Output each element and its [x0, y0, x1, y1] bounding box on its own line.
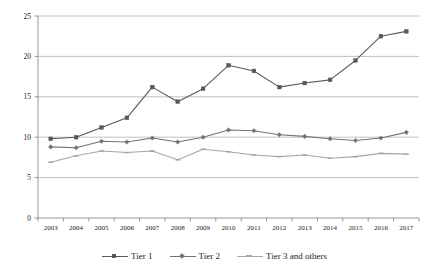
legend-marker-icon — [179, 253, 185, 259]
axis-lines — [35, 16, 39, 218]
data-point-marker — [150, 136, 155, 141]
x-tick-label: 2006 — [120, 224, 135, 232]
legend-item-tier-2[interactable]: Tier 2 — [170, 251, 220, 261]
data-point-marker — [227, 63, 231, 67]
data-point-marker — [201, 135, 206, 140]
legend-swatch-tier-3-and-others — [237, 252, 263, 261]
data-point-marker — [175, 140, 180, 145]
y-tick-label: 25 — [24, 12, 32, 21]
x-tick-label: 2014 — [323, 224, 338, 232]
data-point-marker — [125, 116, 129, 120]
data-point-marker — [226, 128, 231, 133]
y-tick-label: 15 — [24, 92, 32, 101]
chart-legend: Tier 1 Tier 2 Tier 3 and others — [0, 243, 429, 269]
data-point-marker — [302, 134, 307, 139]
x-tick-label: 2005 — [95, 224, 110, 232]
legend-label-tier-3-and-others: Tier 3 and others — [266, 251, 327, 261]
y-tick-label: 5 — [27, 173, 31, 182]
data-point-marker — [176, 100, 180, 104]
data-point-marker — [353, 138, 358, 143]
x-tick-label: 2007 — [145, 224, 160, 232]
line-chart: 0510152025 20032004200520062007200820092… — [0, 0, 429, 272]
data-point-marker — [74, 145, 79, 150]
y-tick-label: 10 — [24, 133, 32, 142]
data-point-marker — [379, 34, 383, 38]
data-point-marker — [100, 126, 104, 130]
data-point-marker — [252, 128, 257, 133]
plot-area: 0510152025 20032004200520062007200820092… — [0, 0, 429, 240]
data-point-marker — [48, 145, 53, 150]
data-series-layer — [48, 29, 408, 162]
legend-label-tier-1: Tier 1 — [131, 251, 152, 261]
x-tick-label: 2016 — [374, 224, 389, 232]
x-tick-label: 2013 — [298, 224, 313, 232]
x-tick-label: 2003 — [44, 224, 59, 232]
data-point-marker — [125, 140, 130, 145]
legend-swatch-tier-2 — [170, 252, 196, 261]
data-point-marker — [99, 139, 104, 144]
data-point-marker — [404, 29, 408, 33]
y-tick-label: 0 — [27, 214, 31, 223]
data-point-marker — [354, 59, 358, 63]
legend-marker-icon — [246, 255, 252, 257]
series-tier-2 — [48, 128, 408, 150]
series-line — [51, 130, 407, 148]
data-point-marker — [201, 87, 205, 91]
y-axis-labels: 0510152025 — [24, 12, 32, 223]
data-point-marker — [49, 137, 53, 141]
x-tick-label: 2011 — [247, 224, 261, 232]
data-point-marker — [74, 135, 78, 139]
legend-marker-icon — [112, 254, 116, 258]
x-tick-label: 2009 — [196, 224, 211, 232]
x-tick-label: 2015 — [349, 224, 364, 232]
data-point-marker — [303, 81, 307, 85]
series-tier-3-and-others — [48, 149, 408, 162]
data-point-marker — [379, 136, 384, 141]
x-axis-ticks — [38, 218, 419, 222]
data-point-marker — [277, 132, 282, 137]
chart-svg: 0510152025 20032004200520062007200820092… — [0, 0, 429, 240]
data-point-marker — [252, 69, 256, 73]
data-point-marker — [150, 85, 154, 89]
y-tick-label: 20 — [24, 52, 32, 61]
x-tick-label: 2010 — [222, 224, 237, 232]
series-tier-1 — [49, 29, 408, 140]
series-line — [51, 31, 407, 138]
x-tick-label: 2004 — [69, 224, 84, 232]
x-axis-labels: 2003200420052006200720082009201020112012… — [44, 224, 414, 232]
legend-label-tier-2: Tier 2 — [199, 251, 220, 261]
legend-item-tier-1[interactable]: Tier 1 — [102, 251, 152, 261]
data-point-marker — [277, 85, 281, 89]
legend-item-tier-3-and-others[interactable]: Tier 3 and others — [237, 251, 327, 261]
gridlines — [38, 16, 419, 218]
data-point-marker — [404, 130, 409, 135]
x-tick-label: 2017 — [399, 224, 414, 232]
data-point-marker — [328, 78, 332, 82]
x-tick-label: 2008 — [171, 224, 186, 232]
x-tick-label: 2012 — [272, 224, 287, 232]
legend-swatch-tier-1 — [102, 252, 128, 261]
